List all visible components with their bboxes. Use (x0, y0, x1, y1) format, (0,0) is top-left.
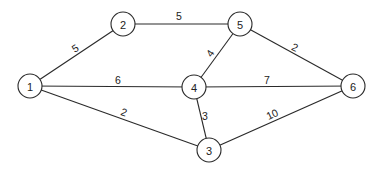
edge-weight-label: 6 (115, 74, 121, 86)
nodes-layer: 125463 (18, 12, 365, 162)
node-5: 5 (228, 12, 252, 36)
edge-weight-label: 2 (290, 40, 300, 53)
edge-weight-label: 3 (202, 110, 208, 122)
node-1: 1 (18, 74, 42, 98)
edge-weight-label: 2 (119, 105, 129, 118)
edge-1-3 (30, 86, 209, 150)
node-label: 6 (350, 81, 356, 93)
edge-3-6 (209, 86, 353, 150)
node-label: 4 (191, 82, 197, 94)
node-6: 6 (341, 74, 365, 98)
node-label: 5 (237, 19, 243, 31)
node-2: 2 (111, 12, 135, 36)
edge-labels-layer: 5562427310 (69, 10, 300, 122)
node-label: 3 (206, 145, 212, 157)
edge-1-2 (30, 24, 123, 86)
node-label: 1 (27, 81, 33, 93)
edge-weight-label: 5 (176, 10, 182, 22)
edge-4-6 (194, 86, 353, 87)
edge-weight-label: 7 (264, 74, 270, 86)
node-4: 4 (182, 75, 206, 99)
node-3: 3 (197, 138, 221, 162)
edge-1-4 (30, 86, 194, 87)
edge-weight-label: 4 (203, 47, 216, 59)
edge-5-6 (240, 24, 353, 86)
node-label: 2 (120, 19, 126, 31)
weighted-graph-diagram: 5562427310 125463 (0, 0, 383, 172)
